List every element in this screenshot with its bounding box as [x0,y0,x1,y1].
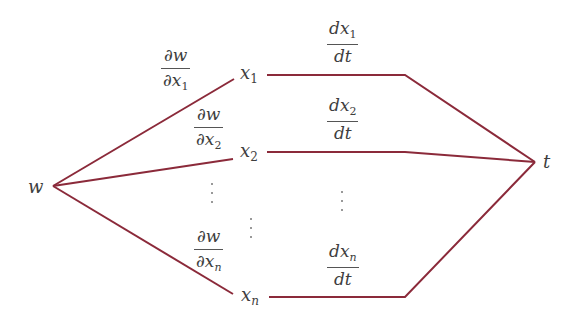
partial-w-x2-label: ∂w ∂x2 [194,106,223,151]
partial-symbol: ∂ [196,129,205,149]
fraction-bar [327,267,359,268]
node-x2-sub: 2 [250,150,258,164]
partial-symbol: ∂ [164,45,173,65]
d-symbol: d [329,95,340,115]
numerator-var: w [206,104,221,124]
numerator-sub: 1 [349,28,356,41]
fraction-bar [327,121,358,122]
fraction-bar [161,68,190,69]
denominator-sub: n [214,261,221,274]
node-x2-var: x [240,140,250,161]
denominator-var: x [172,70,182,90]
partial-symbol: ∂ [196,251,205,271]
node-x1-sub: 1 [250,72,258,86]
derivative-x1-t-label: dx1 dt [327,20,358,65]
denominator-var: x [205,129,215,149]
derivative-xn-t-label: dxn dt [327,243,359,288]
numerator-var: w [206,226,221,246]
denominator: dt [332,125,354,142]
numerator-sub: 2 [349,105,356,118]
denominator-sub: 2 [214,139,221,152]
node-x1-var: x [240,62,250,83]
node-x2: x2 [240,142,258,163]
numerator-sub: n [349,251,356,264]
edge-x2-t [267,152,535,162]
node-xn-var: x [241,284,251,305]
chain-rule-tree-diagram: w t x1 x2 xn ∂w ∂x1 ∂w ∂x2 ∂w ∂xn dx1 dt [0,0,582,323]
d-symbol: d [329,18,340,38]
node-xn-sub: n [251,294,259,308]
denominator: dt [332,271,354,288]
edge-xn-t [269,162,535,297]
denominator-sub: 1 [181,80,188,93]
vertical-ellipsis-right [340,191,344,211]
numerator-var: w [173,45,188,65]
vertical-ellipsis-nodes [249,218,253,238]
partial-w-xn-label: ∂w ∂xn [194,228,223,273]
vertical-ellipsis-left [210,183,214,203]
partial-symbol: ∂ [197,104,206,124]
denominator: dt [332,48,354,65]
partial-symbol: ∂ [163,70,172,90]
fraction-bar [327,44,358,45]
fraction-bar [194,249,223,250]
diagram-edges [0,0,582,323]
denominator-var: x [205,251,215,271]
edge-w-x2 [53,159,233,186]
derivative-x2-t-label: dx2 dt [327,97,358,142]
node-t: t [543,153,550,171]
partial-w-x1-label: ∂w ∂x1 [161,47,190,92]
node-w-label: w [28,176,43,197]
node-xn: xn [241,286,259,307]
node-t-label: t [543,151,550,172]
node-x1: x1 [240,64,258,85]
partial-symbol: ∂ [197,226,206,246]
node-w: w [28,178,43,196]
edge-x1-t [267,75,535,162]
fraction-bar [194,127,223,128]
d-symbol: d [329,241,340,261]
